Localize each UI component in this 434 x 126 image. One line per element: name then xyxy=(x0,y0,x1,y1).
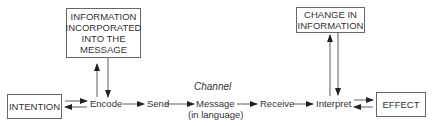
channel-label: Channel xyxy=(194,81,231,92)
encode-label: Encode xyxy=(90,98,122,109)
message-sub-label: (in language) xyxy=(188,109,243,120)
info-incorporated-text: INFORMATION INCORPORATED INTO THE MESSAG… xyxy=(66,11,142,55)
receive-label: Receive xyxy=(260,98,294,109)
change-in-information-box: CHANGE IN INFORMATION xyxy=(296,7,365,33)
interpret-label: Interpret xyxy=(316,98,351,109)
effect-text: EFFECT xyxy=(383,99,420,110)
change-in-information-text: CHANGE IN INFORMATION xyxy=(298,9,364,31)
send-label: Send xyxy=(147,98,169,109)
info-incorporated-box: INFORMATION INCORPORATED INTO THE MESSAG… xyxy=(66,8,141,58)
intention-box: INTENTION xyxy=(7,94,62,119)
intention-text: INTENTION xyxy=(9,101,60,112)
effect-box: EFFECT xyxy=(376,92,426,117)
message-label: Message xyxy=(196,98,235,109)
